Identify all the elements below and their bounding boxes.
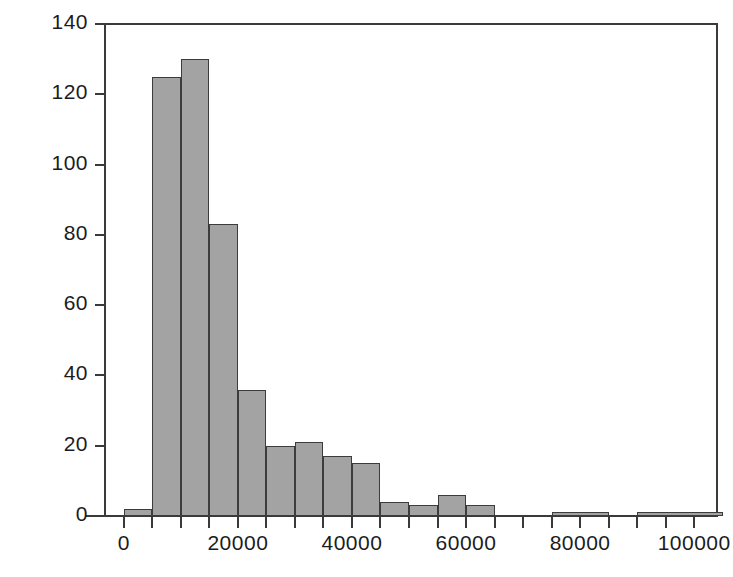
x-axis-tick (294, 517, 296, 528)
y-axis-tick-label: 40 (0, 361, 88, 385)
x-axis-tick-label: 20000 (207, 531, 268, 555)
x-axis-tick (636, 517, 638, 528)
x-axis-tick (237, 517, 239, 528)
y-axis-tick-label: 80 (0, 221, 88, 245)
x-axis-tick (379, 517, 381, 528)
x-axis-tick (351, 517, 353, 528)
x-axis-tick-label: 80000 (550, 531, 611, 555)
y-axis-tick-label: 100 (0, 151, 88, 175)
y-axis-tick (95, 515, 104, 517)
x-axis-tick (465, 517, 467, 528)
x-axis-tick (265, 517, 267, 528)
histogram-bar (152, 77, 181, 516)
histogram-figure: 020406080100120140 020000400006000080000… (0, 0, 733, 577)
y-axis-tick (95, 234, 104, 236)
y-axis-tick (95, 23, 104, 25)
histogram-bar (238, 390, 267, 517)
histogram-bar (323, 456, 352, 516)
y-axis-tick-label: 60 (0, 291, 88, 315)
x-axis-tick (208, 517, 210, 528)
histogram-bar (552, 512, 609, 516)
x-axis-tick (608, 517, 610, 528)
x-axis-tick-label: 0 (118, 531, 130, 555)
x-axis-tick (123, 517, 125, 528)
histogram-bar (637, 512, 723, 516)
histogram-bar (295, 442, 324, 516)
y-axis-tick (95, 304, 104, 306)
x-axis-tick (494, 517, 496, 528)
histogram-bar (352, 463, 381, 516)
x-axis-tick (437, 517, 439, 528)
y-axis-tick-label: 0 (0, 502, 88, 526)
y-axis-tick-label: 20 (0, 432, 88, 456)
histogram-bar (266, 446, 295, 516)
y-axis-tick-label: 140 (0, 10, 88, 34)
histogram-bar (181, 59, 210, 516)
histogram-bar (380, 502, 409, 516)
x-axis-tick (693, 517, 695, 528)
histogram-bar (409, 505, 438, 516)
x-axis-tick (322, 517, 324, 528)
x-axis-tick (665, 517, 667, 528)
x-axis-tick (551, 517, 553, 528)
x-axis-tick-label: 100000 (658, 531, 731, 555)
y-axis-tick-label: 120 (0, 80, 88, 104)
x-axis-tick (151, 517, 153, 528)
x-axis-tick (408, 517, 410, 528)
x-axis-tick (522, 517, 524, 528)
histogram-bar (209, 224, 238, 516)
x-axis-tick (180, 517, 182, 528)
y-axis-tick (95, 164, 104, 166)
histogram-bar (438, 495, 467, 516)
y-axis-tick (95, 445, 104, 447)
y-axis-tick (95, 93, 104, 95)
x-axis-tick-label: 40000 (322, 531, 383, 555)
y-axis-tick (95, 374, 104, 376)
histogram-bar (124, 509, 153, 516)
x-axis-tick-label: 60000 (436, 531, 497, 555)
plot-area (105, 24, 717, 516)
x-axis-tick (579, 517, 581, 528)
histogram-bar (466, 505, 495, 516)
